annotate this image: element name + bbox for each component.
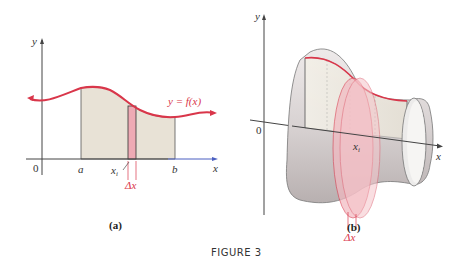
panel-a: y 0 a b x xi Δx y = f(x) (a) [26, 35, 218, 232]
disk-slab-front [340, 78, 380, 218]
label-a: a [78, 163, 84, 175]
origin-b-label: 0 [256, 124, 262, 136]
label-delta-x: Δx [124, 179, 136, 191]
x-axis-b-arrow [437, 144, 443, 149]
figure: y 0 a b x xi Δx y = f(x) (a) [0, 0, 469, 266]
figure-caption: FIGURE 3 [211, 247, 262, 258]
x-axis-arrow [212, 157, 218, 161]
curve-label: y = f(x) [167, 95, 201, 108]
x-axis-b-label: x [435, 150, 441, 162]
origin-label: 0 [33, 162, 39, 174]
label-b: b [172, 163, 178, 175]
y-axis-b-arrow [262, 14, 266, 20]
caption-b: (b) [347, 221, 361, 234]
y-axis-b-label: y [254, 10, 260, 22]
riemann-slab [128, 106, 136, 159]
x-axis-label: x [212, 162, 218, 174]
label-xi: xi [110, 164, 118, 178]
panel-b: y 0 xi x Δx (b) [250, 10, 443, 243]
curve-right-arrow [210, 110, 217, 116]
y-axis-arrow [40, 38, 44, 44]
caption-a: (a) [109, 219, 122, 232]
y-axis-label: y [31, 35, 37, 47]
